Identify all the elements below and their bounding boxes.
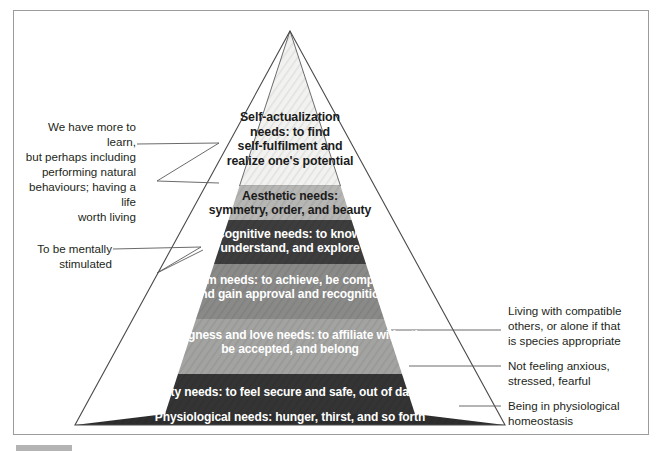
annotation-self-actualization: We have more to learn, but perhaps inclu… — [18, 119, 136, 224]
leader-line-cognitive — [113, 247, 203, 273]
pyramid-svg — [0, 0, 663, 458]
annotation-safety: Not feeling anxious, stressed, fearful — [508, 358, 648, 388]
annotation-belongingness: Living with compatible others, or alone … — [508, 303, 648, 348]
pyramid-diagram: Self-actualization needs: to find self-f… — [0, 0, 663, 458]
leader-line-self-actualization — [137, 143, 219, 183]
annotation-cognitive: To be mentally stimulated — [18, 241, 112, 271]
annotation-physiological: Being in physiological homeostasis — [508, 398, 653, 428]
